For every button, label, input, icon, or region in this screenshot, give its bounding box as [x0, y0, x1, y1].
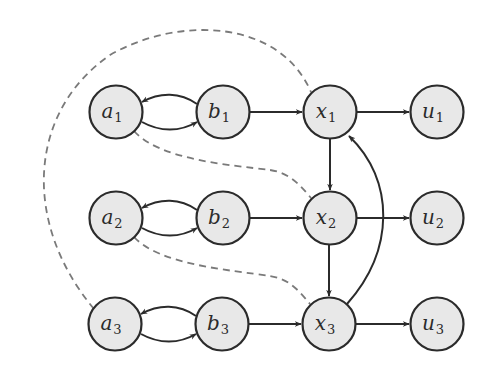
edge-b1-a1 — [142, 95, 197, 104]
node-b3: b3 — [196, 298, 249, 351]
node-a3: a3 — [89, 298, 142, 351]
dashed-edge-a1-x2 — [134, 131, 311, 198]
solid-edges — [141, 95, 409, 342]
node-b1: b1 — [197, 86, 250, 139]
edge-b3-a3 — [141, 307, 196, 316]
node-u1: u1 — [411, 86, 464, 139]
node-x2: x2 — [304, 192, 357, 245]
edge-a1-b1 — [142, 122, 197, 130]
edge-a2-b2 — [142, 228, 197, 236]
node-b2: b2 — [197, 192, 250, 245]
node-x1: x1 — [304, 86, 357, 139]
dashed-edges — [44, 30, 311, 309]
node-a1: a1 — [90, 86, 143, 139]
edge-b2-a2 — [142, 201, 197, 210]
dashed-edge-a2-x3 — [134, 237, 310, 304]
node-a2: a2 — [90, 192, 143, 245]
graph-diagram: a1b1x1u1a2b2x2u2a3b3x3u3 — [0, 0, 496, 375]
node-u3: u3 — [411, 298, 464, 351]
node-x3: x3 — [303, 298, 356, 351]
node-u2: u2 — [411, 192, 464, 245]
edge-a3-b3 — [141, 334, 196, 342]
